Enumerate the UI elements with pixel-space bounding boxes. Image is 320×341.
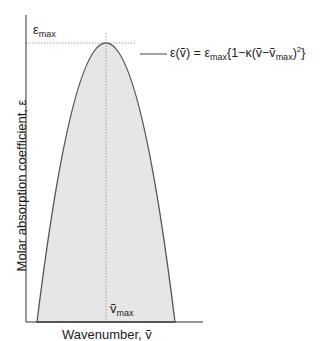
nu-max-label: ṽmax: [110, 301, 134, 316]
y-axis-label: Molar absorption coefficient, ε: [14, 86, 29, 286]
epsilon-max-label: εmax: [33, 22, 56, 37]
x-axis-label: Wavenumber, ṽ: [62, 327, 152, 341]
equation-label: ε(ṽ) = εmax{1−κ(ṽ−ṽmax)2}: [170, 46, 305, 60]
